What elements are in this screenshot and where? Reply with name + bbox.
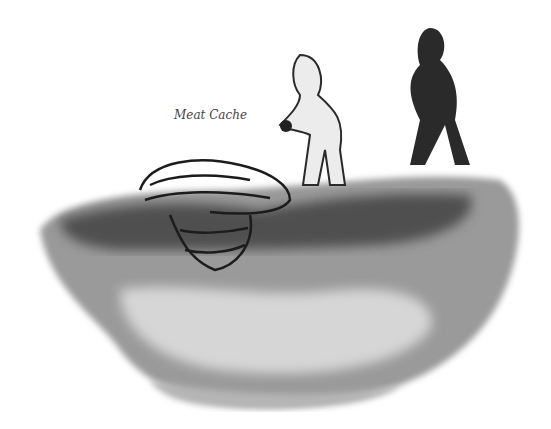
- ground-mound: [40, 177, 519, 409]
- person-left: [280, 55, 345, 185]
- meat-cache-label: Meat Cache: [174, 108, 247, 122]
- watercolor-scene: [0, 0, 551, 429]
- person-right: [410, 28, 470, 165]
- illustration: Meat Cache: [0, 0, 551, 429]
